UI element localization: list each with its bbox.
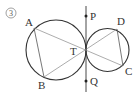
- label-d: D: [117, 15, 125, 27]
- label-c: C: [125, 65, 132, 77]
- label-a: A: [25, 16, 33, 28]
- segment-bd: [44, 29, 117, 77]
- label-p: P: [90, 10, 96, 22]
- left-circle: [26, 20, 86, 80]
- problem-number-text: 3: [9, 9, 13, 18]
- problem-number: 3: [6, 8, 16, 18]
- label-t: T: [70, 45, 77, 57]
- point-p-dot: [85, 15, 88, 18]
- label-q: Q: [90, 75, 98, 87]
- point-q-dot: [85, 80, 88, 83]
- segment-ab: [34, 28, 44, 77]
- label-b: B: [38, 79, 45, 91]
- geometry-diagram: 3 A B C D T P Q: [0, 0, 138, 92]
